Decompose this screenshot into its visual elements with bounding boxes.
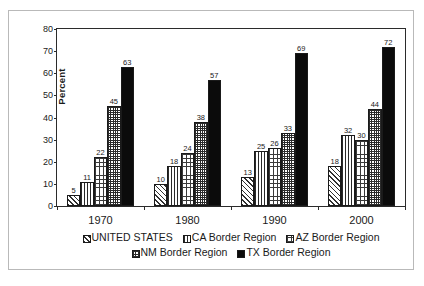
bar: 30 — [355, 140, 368, 206]
bar-value-label: 45 — [110, 98, 118, 106]
y-tick-mark — [54, 162, 58, 163]
bar-value-label: 10 — [157, 176, 165, 184]
bar: 10 — [154, 184, 167, 206]
y-tick-mark — [54, 118, 58, 119]
legend-item[interactable]: NM Border Region — [132, 245, 228, 259]
y-tick-label: 20 — [43, 157, 53, 167]
bar-value-label: 44 — [371, 101, 379, 109]
bar: 5 — [67, 195, 80, 206]
y-tick-label: 0 — [48, 201, 53, 211]
bar-value-label: 22 — [96, 149, 104, 157]
legend-item[interactable]: TX Border Region — [237, 245, 330, 259]
y-tick-mark — [54, 73, 58, 74]
plot-area: Percent 01020304050607080 19701980199020… — [56, 28, 406, 207]
legend-label: NM Border Region — [141, 246, 228, 259]
x-tick-label: 1980 — [175, 214, 199, 226]
bar: 63 — [121, 67, 134, 206]
bar: 69 — [295, 53, 308, 206]
legend-swatch-icon — [83, 235, 91, 243]
bar: 26 — [268, 148, 281, 206]
chart-figure: Percent 01020304050607080 19701980199020… — [8, 10, 414, 270]
x-tick-mark — [405, 206, 406, 210]
y-tick-mark — [54, 95, 58, 96]
legend-swatch-icon — [286, 235, 294, 243]
chart-legend: UNITED STATESCA Border RegionAZ Border R… — [56, 229, 406, 259]
y-tick-label: 60 — [43, 68, 53, 78]
bar-value-label: 72 — [384, 39, 392, 47]
y-tick-label: 80 — [43, 24, 53, 34]
y-tick-mark — [54, 140, 58, 141]
y-axis-title: Percent — [56, 47, 67, 127]
bar: 57 — [208, 80, 221, 206]
bar: 38 — [194, 122, 207, 206]
bar: 24 — [181, 153, 194, 206]
legend-item[interactable]: CA Border Region — [183, 230, 277, 244]
bar-value-label: 69 — [297, 45, 305, 53]
bar-value-label: 63 — [123, 59, 131, 67]
bar-value-label: 57 — [210, 72, 218, 80]
bar-value-label: 33 — [284, 125, 292, 133]
bar-value-label: 24 — [183, 145, 191, 153]
bar-value-label: 18 — [170, 158, 178, 166]
bar-value-label: 38 — [197, 114, 205, 122]
x-tick-mark — [318, 206, 319, 210]
x-tick-mark — [144, 206, 145, 210]
bar: 32 — [341, 135, 354, 206]
bar-value-label: 5 — [72, 187, 76, 195]
legend-swatch-icon — [132, 250, 140, 258]
y-tick-label: 40 — [43, 113, 53, 123]
legend-row: NM Border RegionTX Border Region — [56, 244, 406, 259]
legend-swatch-icon — [237, 250, 245, 258]
legend-label: AZ Border Region — [295, 231, 379, 244]
legend-label: TX Border Region — [246, 246, 330, 259]
x-tick-label: 1970 — [88, 214, 112, 226]
legend-label: CA Border Region — [192, 231, 277, 244]
bar-value-label: 25 — [257, 143, 265, 151]
y-tick-label: 10 — [43, 179, 53, 189]
y-tick-label: 50 — [43, 90, 53, 100]
legend-row: UNITED STATESCA Border RegionAZ Border R… — [56, 229, 406, 244]
x-tick-label: 1990 — [262, 214, 286, 226]
bar-value-label: 30 — [357, 132, 365, 140]
y-tick-mark — [54, 29, 58, 30]
bar: 45 — [107, 106, 120, 206]
bar: 25 — [254, 151, 267, 206]
bar-value-label: 32 — [344, 127, 352, 135]
legend-swatch-icon — [183, 235, 191, 243]
legend-item[interactable]: UNITED STATES — [83, 230, 173, 244]
bar: 33 — [281, 133, 294, 206]
legend-label: UNITED STATES — [92, 231, 173, 244]
bar-value-label: 11 — [83, 174, 91, 182]
bar-value-label: 26 — [270, 140, 278, 148]
bar-value-label: 13 — [244, 169, 252, 177]
bar: 11 — [80, 182, 93, 206]
bar: 18 — [167, 166, 180, 206]
bar: 22 — [94, 157, 107, 206]
bar: 72 — [382, 47, 395, 206]
bar: 13 — [241, 177, 254, 206]
bar-value-label: 18 — [331, 158, 339, 166]
y-tick-mark — [54, 184, 58, 185]
y-tick-label: 70 — [43, 46, 53, 56]
x-tick-label: 2000 — [349, 214, 373, 226]
y-tick-label: 30 — [43, 135, 53, 145]
bar: 18 — [328, 166, 341, 206]
legend-item[interactable]: AZ Border Region — [286, 230, 379, 244]
x-tick-mark — [57, 206, 58, 210]
y-tick-mark — [54, 51, 58, 52]
bar: 44 — [368, 109, 381, 206]
x-tick-mark — [231, 206, 232, 210]
